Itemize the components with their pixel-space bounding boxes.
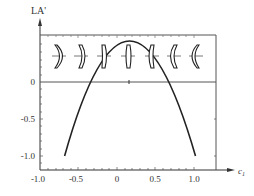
lens-shapes [55, 45, 199, 68]
lens-icon-3 [102, 45, 107, 68]
x-tick-label-neg0.5: -0.5 [69, 174, 84, 184]
lens-icon-7 [192, 45, 199, 68]
x-axis-arrow-icon [227, 168, 235, 172]
lens-icon-4 [126, 45, 131, 68]
y-axis-arrow-icon [38, 18, 42, 26]
x-axis-label: c1 [238, 166, 245, 177]
x-tick-label-0.5: 0.5 [149, 174, 161, 184]
lens-icon-1 [55, 45, 63, 68]
lens-icon-2 [79, 45, 85, 68]
y-tick-label-0: 0 [31, 77, 36, 87]
y-axis-label: LA' [31, 5, 46, 16]
y-tick-label-neg0.5: -0.5 [21, 114, 36, 124]
x-tick-label-1.0: 1.0 [188, 174, 200, 184]
lens-icon-5 [149, 45, 154, 68]
y-tick-label-neg1.0: -1.0 [21, 151, 36, 161]
chart-canvas: LA' c1 0 -0.5 -1.0 -1.0 -0.5 0 0.5 1.0 [0, 0, 254, 196]
x-tick-label-neg1.0: -1.0 [31, 174, 46, 184]
x-tick-label-0: 0 [115, 174, 120, 184]
lens-icon-6 [171, 45, 178, 68]
